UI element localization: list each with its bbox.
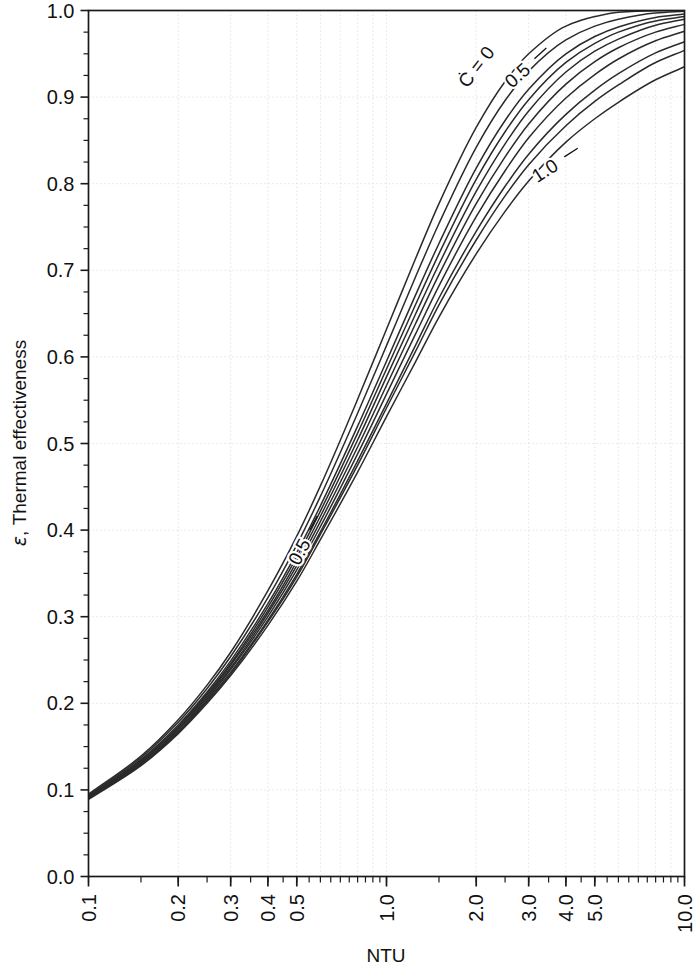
svg-text:5.0: 5.0: [584, 894, 606, 922]
y-tick-label: 0.8: [47, 173, 75, 195]
chart-figure: 0.00.10.20.30.40.50.60.70.80.91.0 0.10.2…: [0, 0, 699, 971]
svg-text:1.0: 1.0: [376, 894, 398, 922]
svg-text:0.3: 0.3: [220, 894, 242, 922]
x-tick-label: 0.1: [78, 894, 100, 922]
y-tick-label: 0.4: [47, 519, 75, 541]
svg-text:3.0: 3.0: [518, 894, 540, 922]
y-axis-title-text: , Thermal effectiveness: [9, 340, 30, 536]
y-tick-label: 0.1: [47, 779, 75, 801]
svg-text:0.1: 0.1: [78, 894, 100, 922]
y-tick-label: 0.5: [47, 433, 75, 455]
x-tick-label: 1.0: [376, 894, 398, 922]
x-tick-label: 0.4: [257, 894, 279, 922]
svg-text:ε, Thermal effectiveness: ε, Thermal effectiveness: [8, 340, 30, 546]
y-tick-label: 0.7: [47, 259, 75, 281]
x-tick-label: 10.0: [674, 894, 696, 933]
x-tick-label: 0.3: [220, 894, 242, 922]
svg-text:0.2: 0.2: [167, 894, 189, 922]
x-tick-label: 2.0: [465, 894, 487, 922]
x-tick-label: 3.0: [518, 894, 540, 922]
svg-text:4.0: 4.0: [555, 894, 577, 922]
svg-text:0.4: 0.4: [257, 894, 279, 922]
y-tick-label: 0.0: [47, 866, 75, 888]
chart-background: [0, 0, 699, 971]
y-tick-label: 0.3: [47, 606, 75, 628]
y-tick-label: 0.6: [47, 346, 75, 368]
y-tick-label: 0.9: [47, 86, 75, 108]
svg-text:10.0: 10.0: [674, 894, 696, 933]
x-tick-label: 4.0: [555, 894, 577, 922]
svg-text:2.0: 2.0: [465, 894, 487, 922]
y-tick-label: 0.2: [47, 692, 75, 714]
epsilon-ntu-chart: 0.00.10.20.30.40.50.60.70.80.91.0 0.10.2…: [0, 0, 699, 971]
y-axis-title: ε, Thermal effectiveness: [8, 340, 30, 546]
epsilon-symbol: ε: [8, 536, 30, 546]
svg-text:0.5: 0.5: [286, 894, 308, 922]
x-tick-label: 0.5: [286, 894, 308, 922]
x-tick-label: 0.2: [167, 894, 189, 922]
y-tick-label: 1.0: [47, 0, 75, 22]
x-axis-title: NTU: [366, 945, 405, 966]
x-tick-label: 5.0: [584, 894, 606, 922]
